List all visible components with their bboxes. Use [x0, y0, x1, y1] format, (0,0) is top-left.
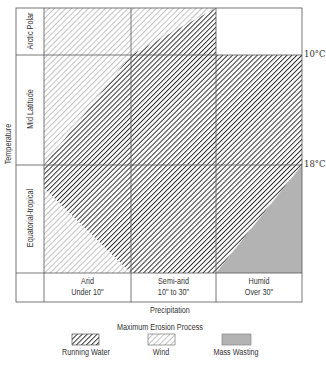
- row-label-mid-latitude: Mid Latitude: [25, 75, 35, 143]
- legend-label-wind: Wind: [136, 347, 187, 358]
- tick-18c: 18°C: [304, 159, 326, 169]
- row-label-equatorial-tropical: Equatorial-tropical: [25, 180, 35, 257]
- x-axis-label: Precipitation: [128, 305, 213, 316]
- y-axis-label: Temperature: [3, 119, 13, 170]
- col-name-semi-arid: Semi-arid: [137, 276, 209, 287]
- col-name-humid: Humid: [222, 276, 295, 287]
- arctic-humid-blank: [216, 8, 302, 55]
- legend-swatch-mass-wasting: [222, 334, 251, 345]
- legend-label-running-water: Running Water: [55, 347, 116, 358]
- col-label-arid: Arid Under 10": [51, 276, 125, 298]
- legend-label-mass-wasting: Mass Wasting: [205, 347, 266, 358]
- col-name-arid: Arid: [51, 276, 125, 287]
- col-label-semi-arid: Semi-arid 10" to 30": [137, 276, 209, 298]
- col-range-humid: Over 30": [222, 287, 295, 298]
- col-range-semi-arid: 10" to 30": [137, 287, 209, 298]
- row-label-arctic-polar: Arctic Polar: [25, 1, 35, 61]
- col-label-humid: Humid Over 30": [222, 276, 295, 298]
- col-range-arid: Under 10": [51, 287, 125, 298]
- legend-swatch-running-water: [72, 334, 99, 345]
- tick-10c: 10°C: [304, 49, 326, 59]
- legend-swatch-wind: [148, 334, 175, 345]
- legend-title: Maximum Erosion Process: [109, 322, 211, 333]
